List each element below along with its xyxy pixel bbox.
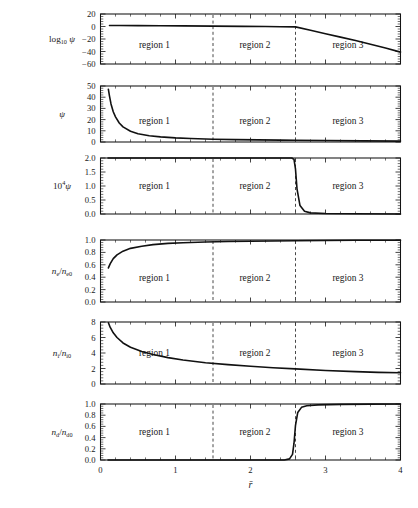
region-label: region 2 [240,273,271,283]
region-label: region 1 [139,116,170,126]
label-part: ψ [65,181,71,191]
xtick-label: 4 [398,465,403,475]
y-axis-label-panel-4: ne/ne0 [52,266,72,277]
ytick-label: −40 [82,47,95,57]
ytick-label: 20 [87,9,96,19]
ytick-label: 2.0 [85,153,96,163]
label-part: ψ [59,109,65,119]
y-axis-label-panel-5: ni/ni0 [53,348,71,359]
ytick-label: 0.8 [85,410,96,420]
region-label: region 2 [240,427,271,437]
region-label: region 2 [240,348,271,358]
region-label: region 2 [240,40,271,50]
label-sub: i0 [66,352,71,359]
region-label: region 1 [139,273,170,283]
panel-1: −60−40−20020region 1region 2region 3 [82,9,400,69]
region-label: region 2 [240,116,271,126]
ytick-label: 0 [91,22,95,32]
ytick-label: 0.8 [85,247,96,257]
ytick-label: 4 [91,348,96,358]
ytick-label: 0.6 [85,260,96,270]
ytick-label: 0.6 [85,421,96,431]
panel-frame-2 [101,86,401,142]
region-label: region 3 [333,181,364,191]
panel-2: 01020304050region 1region 2region 3 [87,81,401,147]
region-label: region 3 [333,116,364,126]
ytick-label: 1.0 [85,235,96,245]
y-axis-label-panel-2: ψ [59,109,65,119]
label-part: ψ [67,34,75,44]
ytick-label: 0.0 [85,209,96,219]
ytick-label: 1.0 [85,181,96,191]
ytick-label: 6 [91,333,96,343]
xtick-label: 3 [323,465,327,475]
ytick-label: 1.0 [85,399,96,409]
panel-5: 02468region 1region 2region 3 [91,317,400,389]
ytick-label: 8 [91,317,95,327]
region-label: region 1 [139,40,170,50]
ytick-label: 30 [87,103,96,113]
panel-frame-1 [101,14,401,64]
label-part: 10 [53,181,63,191]
ytick-label: 0.0 [85,297,96,307]
ytick-label: 10 [87,126,96,136]
multi-panel-plot: −60−40−20020region 1region 2region 3log1… [0,0,418,508]
ytick-label: −60 [82,59,95,69]
region-label: region 3 [333,273,364,283]
ytick-label: 1.5 [85,167,96,177]
y-axis-label-panel-6: nd/nd0 [51,427,72,438]
ytick-label: 50 [87,81,96,91]
ytick-label: 0.2 [85,285,96,295]
ytick-label: −20 [82,34,95,44]
label-sub: d0 [66,431,72,438]
ytick-label: 0.0 [85,455,96,465]
panel-frame-4 [101,240,401,302]
ytick-label: 0.4 [85,433,96,443]
ytick-label: 0.4 [85,272,96,282]
panel-3: 0.00.51.01.52.0region 1region 2region 3 [85,153,401,219]
ytick-label: 0.5 [85,195,96,205]
xtick-label: 1 [173,465,177,475]
figure-container: −60−40−20020region 1region 2region 3log1… [0,0,418,508]
region-label: region 2 [240,181,271,191]
y-axis-label-panel-1: log10 ψ [49,34,75,45]
ytick-label: 0 [91,137,95,147]
panel-6: 0.00.20.40.60.81.0region 1region 2region… [85,399,401,465]
region-label: region 1 [139,181,170,191]
ytick-label: 20 [87,115,96,125]
xtick-label: 0 [98,465,102,475]
panel-4: 0.00.20.40.60.81.0region 1region 2region… [85,235,401,307]
x-axis-label: r̄ [249,479,254,490]
label-part: log [49,34,61,44]
region-label: region 1 [139,427,170,437]
ytick-label: 0.2 [85,444,96,454]
region-label: region 3 [333,348,364,358]
region-label: region 3 [333,427,364,437]
y-axis-label-panel-3: 104ψ [53,179,71,191]
ytick-label: 40 [87,92,96,102]
ytick-label: 0 [91,379,95,389]
ytick-label: 2 [91,364,95,374]
label-sub: e0 [66,270,72,277]
xtick-label: 2 [248,465,252,475]
